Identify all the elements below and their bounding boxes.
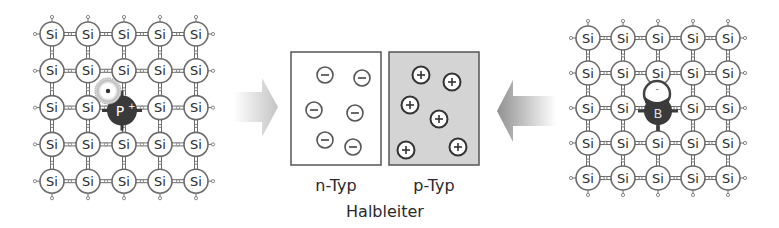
svg-text:Si: Si: [82, 174, 94, 189]
svg-text:Si: Si: [190, 137, 202, 152]
silicon-atom: Si: [40, 22, 64, 46]
svg-text:Si: Si: [687, 66, 699, 81]
silicon-atom: Si: [40, 169, 64, 193]
silicon-atom: Si: [576, 96, 600, 120]
svg-text:P: P: [116, 103, 124, 119]
silicon-atom: Si: [148, 96, 172, 120]
svg-text:Si: Si: [582, 31, 594, 46]
silicon-atom: Si: [716, 96, 740, 120]
silicon-atom: Si: [76, 169, 100, 193]
silicon-atom: Si: [148, 22, 172, 46]
silicon-atom: Si: [681, 26, 705, 50]
silicon-atom: Si: [576, 61, 600, 85]
negative-charge-icon: [317, 132, 333, 148]
svg-text:Si: Si: [118, 174, 130, 189]
positive-charge-icon: [402, 97, 419, 114]
svg-text:Si: Si: [582, 101, 594, 116]
svg-text:Si: Si: [118, 137, 130, 152]
svg-text:Si: Si: [190, 100, 202, 115]
left-silicon-lattice-phosphorus: SiSiSiSiSiSiSiSiSiSiSiSiSiSiSiSiSiSiSiSi…: [33, 15, 214, 199]
silicon-atom: Si: [646, 131, 670, 155]
silicon-atom: Si: [576, 131, 600, 155]
silicon-atom: Si: [40, 96, 64, 120]
free-electron: [95, 78, 121, 104]
svg-text:Si: Si: [687, 101, 699, 116]
svg-text:Si: Si: [617, 171, 629, 186]
svg-text:Si: Si: [722, 136, 734, 151]
svg-text:Si: Si: [82, 63, 94, 78]
hole: -: [644, 81, 670, 108]
svg-text:Si: Si: [118, 27, 130, 42]
svg-text:Si: Si: [617, 31, 629, 46]
n-type-box: [291, 52, 381, 165]
silicon-atom: Si: [148, 132, 172, 156]
silicon-atom: Si: [611, 96, 635, 120]
silicon-atom: Si: [184, 22, 208, 46]
svg-text:Si: Si: [154, 137, 166, 152]
svg-text:Si: Si: [652, 171, 664, 186]
silicon-atom: Si: [646, 26, 670, 50]
svg-text:Si: Si: [582, 171, 594, 186]
semiconductor-caption: Halbleiter: [346, 202, 424, 221]
svg-text:Si: Si: [82, 27, 94, 42]
svg-text:Si: Si: [687, 31, 699, 46]
svg-text:-: -: [655, 84, 658, 94]
svg-text:Si: Si: [582, 136, 594, 151]
silicon-atom: Si: [611, 61, 635, 85]
positive-charge-icon: [431, 111, 448, 128]
silicon-atom: Si: [681, 166, 705, 190]
svg-text:Si: Si: [617, 66, 629, 81]
svg-text:Si: Si: [722, 31, 734, 46]
silicon-atom: Si: [148, 169, 172, 193]
svg-text:Si: Si: [652, 136, 664, 151]
silicon-atom: Si: [681, 131, 705, 155]
silicon-atom: Si: [40, 59, 64, 83]
positive-charge-icon: [450, 139, 467, 156]
svg-text:Si: Si: [154, 174, 166, 189]
semiconductor-diagram: SiSiSiSiSiSiSiSiSiSiSiSiSiSiSiSiSiSiSiSi…: [0, 0, 779, 228]
svg-text:Si: Si: [722, 171, 734, 186]
svg-text:Si: Si: [617, 101, 629, 116]
silicon-atom: Si: [76, 59, 100, 83]
silicon-atom: Si: [184, 169, 208, 193]
svg-text:Si: Si: [652, 66, 664, 81]
silicon-atom: Si: [611, 131, 635, 155]
silicon-atom: Si: [576, 26, 600, 50]
svg-text:Si: Si: [722, 101, 734, 116]
svg-text:Si: Si: [582, 66, 594, 81]
silicon-atom: Si: [646, 166, 670, 190]
svg-text:Si: Si: [82, 100, 94, 115]
svg-text:Si: Si: [154, 27, 166, 42]
svg-text:Si: Si: [154, 100, 166, 115]
silicon-atom: Si: [112, 132, 136, 156]
positive-charge-icon: [413, 67, 430, 84]
negative-charge-icon: [345, 139, 361, 155]
svg-text:Si: Si: [722, 66, 734, 81]
silicon-atom: Si: [716, 26, 740, 50]
silicon-atom: Si: [184, 59, 208, 83]
right-pointing-arrow-icon: [233, 78, 278, 137]
svg-text:+: +: [128, 101, 136, 111]
svg-text:Si: Si: [190, 174, 202, 189]
silicon-atom: Si: [611, 166, 635, 190]
positive-charge-icon: [398, 142, 415, 159]
svg-text:Si: Si: [652, 31, 664, 46]
silicon-atom: Si: [184, 96, 208, 120]
svg-text:Si: Si: [46, 100, 58, 115]
negative-charge-icon: [306, 102, 322, 118]
silicon-atom: Si: [76, 132, 100, 156]
svg-text:Si: Si: [190, 63, 202, 78]
svg-text:Si: Si: [687, 171, 699, 186]
positive-charge-icon: [444, 74, 461, 91]
svg-text:Si: Si: [82, 137, 94, 152]
silicon-atom: Si: [76, 96, 100, 120]
silicon-atom: Si: [112, 59, 136, 83]
silicon-atom: Si: [611, 26, 635, 50]
svg-text:Si: Si: [617, 136, 629, 151]
silicon-atom: Si: [76, 22, 100, 46]
silicon-atom: Si: [716, 166, 740, 190]
n-type-label: n-Typ: [315, 176, 356, 195]
left-pointing-arrow-icon: [497, 80, 556, 142]
p-type-label: p-Typ: [413, 176, 454, 195]
negative-charge-icon: [354, 70, 370, 86]
